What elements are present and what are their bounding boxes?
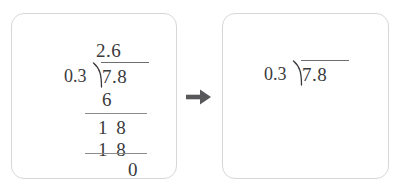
first-product: 6 <box>102 90 112 109</box>
long-division-setup: 0.3 7.8 <box>223 14 388 178</box>
second-product: 1 8 <box>98 140 128 159</box>
long-division-worked: 2.6 0.3 7.8 6 1 8 1 8 0 <box>12 14 176 178</box>
divisor-value: 0.3 <box>264 65 287 83</box>
quotient-value: 2.6 <box>96 41 121 60</box>
first-difference: 1 8 <box>98 118 128 137</box>
diagram-canvas: 2.6 0.3 7.8 6 1 8 1 8 0 0.3 <box>0 0 402 191</box>
dividend-value: 7.8 <box>102 67 127 86</box>
arrow-right-icon <box>184 84 214 110</box>
remainder-value: 0 <box>128 160 138 179</box>
dividend-value: 7.8 <box>302 65 327 84</box>
left-panel-card: 2.6 0.3 7.8 6 1 8 1 8 0 <box>11 13 177 179</box>
divisor-value: 0.3 <box>64 67 87 85</box>
right-panel-card: 0.3 7.8 <box>222 13 389 179</box>
subtraction-rule-first <box>85 113 147 114</box>
subtraction-rule-second <box>85 153 147 154</box>
vinculum-line <box>101 62 149 63</box>
vinculum-line <box>301 60 349 61</box>
